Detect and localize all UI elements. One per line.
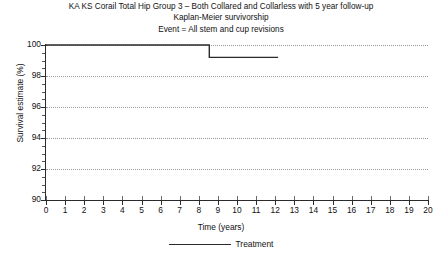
x-tick-20 xyxy=(428,201,429,205)
y-minor-tick xyxy=(42,115,45,116)
x-minor-tick xyxy=(199,196,200,200)
y-minor-tick xyxy=(42,177,45,178)
x-tick-19 xyxy=(409,201,410,205)
x-minor-tick xyxy=(180,196,181,200)
survival-curve xyxy=(0,0,442,259)
x-tick-10 xyxy=(237,201,238,205)
y-minor-tick xyxy=(42,154,45,155)
legend-label-treatment: Treatment xyxy=(236,239,274,249)
x-tick-11 xyxy=(256,201,257,205)
y-minor-tick xyxy=(42,68,45,69)
y-minor-tick xyxy=(42,53,45,54)
x-tick-9 xyxy=(218,201,219,205)
legend-line-sample xyxy=(169,244,231,245)
y-minor-tick xyxy=(42,61,45,62)
x-minor-tick xyxy=(352,196,353,200)
x-tick-17 xyxy=(371,201,372,205)
y-tick-92 xyxy=(41,169,45,170)
x-minor-tick xyxy=(142,196,143,200)
x-minor-tick xyxy=(294,196,295,200)
y-minor-tick xyxy=(42,130,45,131)
y-tick-98 xyxy=(41,76,45,77)
x-minor-tick xyxy=(275,196,276,200)
x-tick-3 xyxy=(103,201,104,205)
y-minor-tick xyxy=(42,84,45,85)
y-tick-90 xyxy=(41,200,45,201)
x-minor-tick xyxy=(333,196,334,200)
x-minor-tick xyxy=(371,196,372,200)
y-minor-tick xyxy=(42,161,45,162)
x-tick-0 xyxy=(46,201,47,205)
y-minor-tick xyxy=(42,123,45,124)
x-minor-tick xyxy=(256,196,257,200)
x-tick-13 xyxy=(294,201,295,205)
x-minor-tick xyxy=(103,196,104,200)
x-minor-tick xyxy=(313,196,314,200)
x-tick-7 xyxy=(180,201,181,205)
x-tick-12 xyxy=(275,201,276,205)
x-minor-tick xyxy=(218,196,219,200)
x-tick-16 xyxy=(352,201,353,205)
x-minor-tick xyxy=(161,196,162,200)
y-minor-tick xyxy=(42,92,45,93)
x-tick-18 xyxy=(390,201,391,205)
x-minor-tick xyxy=(122,196,123,200)
y-tick-100 xyxy=(41,45,45,46)
x-tick-1 xyxy=(65,201,66,205)
y-tick-96 xyxy=(41,107,45,108)
x-minor-tick xyxy=(65,196,66,200)
x-tick-8 xyxy=(199,201,200,205)
x-minor-tick xyxy=(390,196,391,200)
x-minor-tick xyxy=(428,196,429,200)
y-minor-tick xyxy=(42,99,45,100)
x-minor-tick xyxy=(46,196,47,200)
x-tick-14 xyxy=(313,201,314,205)
x-tick-2 xyxy=(84,201,85,205)
chart-legend: Treatment xyxy=(0,239,442,249)
y-minor-tick xyxy=(42,146,45,147)
x-tick-15 xyxy=(333,201,334,205)
x-minor-tick xyxy=(237,196,238,200)
x-tick-6 xyxy=(161,201,162,205)
treatment-curve-line xyxy=(46,45,278,57)
y-tick-94 xyxy=(41,138,45,139)
y-minor-tick xyxy=(42,185,45,186)
kaplan-meier-chart: KA KS Corail Total Hip Group 3 – Both Co… xyxy=(0,0,442,259)
x-minor-tick xyxy=(84,196,85,200)
y-minor-tick xyxy=(42,192,45,193)
x-tick-5 xyxy=(142,201,143,205)
x-minor-tick xyxy=(409,196,410,200)
x-tick-4 xyxy=(122,201,123,205)
